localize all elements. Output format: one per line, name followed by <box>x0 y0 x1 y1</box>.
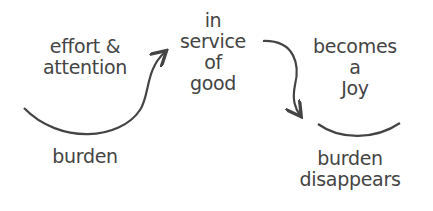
node-effort-attention: effort & attention <box>30 36 140 78</box>
node-becomes-a-joy: becomes a Joy <box>300 36 410 99</box>
node-burden: burden <box>35 146 135 167</box>
joy-smile-arc <box>318 123 400 136</box>
node-in-service-of-good: in service of good <box>163 10 263 94</box>
node-burden-disappears: burden disappears <box>280 148 420 190</box>
arrow-service-to-disappears <box>263 41 300 115</box>
